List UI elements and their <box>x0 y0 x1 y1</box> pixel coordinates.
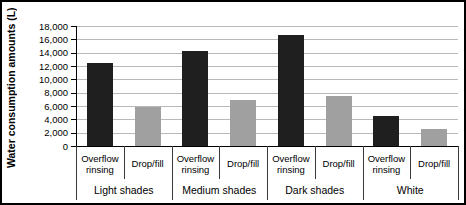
x-sub-label-overflow-rinsing: Overflow rinsing <box>363 148 411 179</box>
y-tick-label: 14,000 <box>26 47 68 58</box>
category-group-separator <box>267 146 268 200</box>
x-sub-label-overflow-rinsing: Overflow rinsing <box>267 148 315 179</box>
y-axis-line <box>76 26 77 146</box>
category-group-separator <box>76 146 77 200</box>
bar-medium-shades-drop-fill <box>230 100 256 146</box>
y-tick-label: 10,000 <box>26 74 68 85</box>
gridline <box>76 66 458 67</box>
bar-white-overflow-rinsing <box>373 116 399 146</box>
x-sub-label-drop-fill: Drop/fill <box>315 148 363 179</box>
bar-medium-shades-overflow-rinsing <box>182 51 208 146</box>
gridline <box>76 106 458 107</box>
x-sub-label-overflow-rinsing: Overflow rinsing <box>172 148 220 179</box>
x-sub-label-drop-fill: Drop/fill <box>410 148 458 179</box>
x-sub-label-drop-fill: Drop/fill <box>124 148 172 179</box>
gridline <box>76 39 458 40</box>
gridline <box>76 93 458 94</box>
x-group-label-medium-shades: Medium shades <box>172 179 268 200</box>
x-group-label-dark-shades: Dark shades <box>267 179 363 200</box>
gridline <box>76 119 458 120</box>
category-separator <box>410 146 411 179</box>
x-group-label-white: White <box>363 179 459 200</box>
x-sub-label-drop-fill: Drop/fill <box>219 148 267 179</box>
category-group-separator <box>363 146 364 200</box>
gridline <box>76 53 458 54</box>
x-sub-label-overflow-rinsing: Overflow rinsing <box>76 148 124 179</box>
x-group-label-light-shades: Light shades <box>76 179 172 200</box>
bar-dark-shades-overflow-rinsing <box>278 35 304 146</box>
y-axis-title: Water consumption amounts (L) <box>5 2 22 174</box>
y-tick-label: 2,000 <box>26 127 68 138</box>
y-tick-label: 12,000 <box>26 61 68 72</box>
gridline <box>76 26 458 27</box>
category-separator <box>315 146 316 179</box>
gridline <box>76 79 458 80</box>
y-tick-label: 16,000 <box>26 34 68 45</box>
category-group-separator <box>172 146 173 200</box>
bar-light-shades-overflow-rinsing <box>87 63 113 146</box>
gridline <box>76 133 458 134</box>
category-separator <box>124 146 125 179</box>
bar-dark-shades-drop-fill <box>326 96 352 146</box>
y-tick-label: 0 <box>26 141 68 152</box>
bar-white-drop-fill <box>421 129 447 146</box>
y-tick-label: 6,000 <box>26 101 68 112</box>
category-group-separator <box>458 146 459 200</box>
bar-chart-figure: Water consumption amounts (L) 18,00016,0… <box>0 0 466 205</box>
y-tick-label: 4,000 <box>26 114 68 125</box>
bar-light-shades-drop-fill <box>135 107 161 146</box>
y-tick-label: 18,000 <box>26 21 68 32</box>
y-tick-label: 8,000 <box>26 87 68 98</box>
category-separator <box>219 146 220 179</box>
